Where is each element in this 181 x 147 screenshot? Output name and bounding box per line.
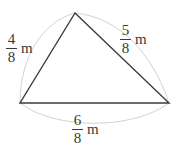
fraction-left-numerator: 4 (7, 32, 17, 47)
unit-label-right: m (135, 32, 147, 47)
side-label-bottom: 6 8 m (72, 113, 99, 146)
unit-label-bottom: m (87, 122, 99, 137)
fraction-bottom-denominator: 8 (73, 131, 83, 146)
fraction-right-denominator: 8 (121, 41, 131, 56)
side-label-left: 4 8 m (6, 32, 33, 65)
fraction-left: 4 8 (6, 32, 17, 65)
fraction-bottom: 6 8 (72, 113, 83, 146)
fraction-left-denominator: 8 (7, 50, 17, 65)
unit-label-left: m (21, 41, 33, 56)
side-label-right: 5 8 m (120, 23, 147, 56)
fraction-bottom-numerator: 6 (73, 113, 83, 128)
fraction-right: 5 8 (120, 23, 131, 56)
fraction-right-numerator: 5 (121, 23, 131, 38)
geometry-figure: 4 8 m 5 8 m 6 8 m (0, 0, 181, 147)
